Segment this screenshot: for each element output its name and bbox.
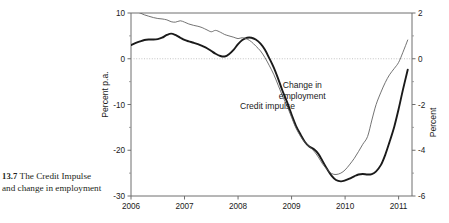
y-tick-label-right: -6 — [418, 192, 426, 201]
x-tick-label: 2007 — [175, 202, 194, 211]
series-annotation-label: Change in — [283, 80, 322, 90]
series-group — [131, 10, 408, 182]
y-tick-label-right: 2 — [418, 9, 423, 18]
y-tick-label-right: 0 — [418, 55, 423, 64]
x-tick-label: 2011 — [390, 202, 408, 211]
y-tick-label-right: -2 — [418, 101, 426, 110]
y-tick-label-left: 0 — [120, 55, 125, 64]
y-tick-label-left: -10 — [113, 101, 125, 110]
y-tick-label-right: -4 — [418, 146, 426, 155]
series-annotation-label: employment — [279, 91, 326, 101]
x-tick-label: 2006 — [122, 202, 141, 211]
y-tick-label-left: -30 — [113, 192, 125, 201]
x-tick-label: 2008 — [229, 202, 248, 211]
figure-root: 13.7 The Credit Impulse and change in em… — [0, 0, 449, 223]
x-tick-label: 2009 — [282, 202, 301, 211]
series-annotation-group: Credit impulseChange inemployment — [240, 80, 326, 111]
y-axis-title-left: Percent p.a. — [100, 71, 110, 117]
y-axis-title-right: Percent — [428, 107, 438, 137]
x-tick-label: 2010 — [336, 202, 355, 211]
chart-plot: 100-10-20-3020-2-4-620062007200820092010… — [0, 0, 449, 223]
series-annotation-label: Credit impulse — [240, 101, 295, 111]
y-tick-label-left: 10 — [116, 9, 126, 18]
y-tick-label-left: -20 — [113, 146, 125, 155]
